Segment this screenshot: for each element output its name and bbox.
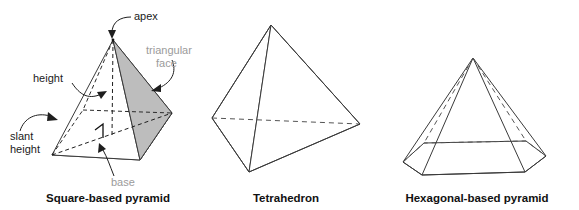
apex-arrowhead: [108, 30, 116, 39]
hexagon-hidden-edge-back-right: [473, 58, 526, 141]
apex-vertex: [112, 39, 115, 42]
slant-height-leader-line: [20, 115, 50, 131]
height-label: height: [33, 72, 63, 84]
base-label: base: [111, 176, 135, 188]
slant-height-label-line1: slant: [10, 130, 33, 142]
hexagon-hidden-edge-back-left: [424, 58, 473, 143]
triangular-face-label-line2: face: [156, 57, 177, 69]
hexagonal-based-pyramid-diagram: Hexagonal-based pyramid: [380, 0, 579, 210]
triangular-face-arrowhead: [151, 84, 161, 92]
apex-label: apex: [134, 10, 158, 22]
square-based-pyramid-caption: Square-based pyramid: [46, 192, 170, 204]
slant-height-arrowhead: [47, 112, 58, 121]
tetrahedron-diagram: Tetrahedron: [190, 0, 380, 210]
tetrahedron-caption: Tetrahedron: [253, 192, 319, 204]
slant-height-label-line2: height: [10, 143, 40, 155]
hexagonal-based-pyramid-caption: Hexagonal-based pyramid: [405, 192, 548, 204]
square-based-pyramid-diagram: apex triangular face height slant height…: [0, 0, 200, 210]
triangular-face-label-line1: triangular: [146, 44, 192, 56]
pyramids-figure: apex triangular face height slant height…: [0, 0, 579, 210]
